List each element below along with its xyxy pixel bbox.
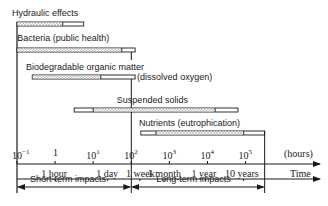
hours-tick-label: 102 (124, 148, 138, 161)
series-label: Nutrients (eutrophication) (139, 118, 240, 128)
hours-tick-label: 10−1 (12, 148, 29, 161)
hours-tick-label: 105 (239, 148, 253, 161)
series-label: Biodegradable organic matter (26, 62, 144, 72)
short-term-label: Short-term impacts (30, 174, 106, 184)
long-term-label: Long-term impacts (156, 174, 231, 184)
bar-hatched-range (18, 23, 63, 26)
hours-tick-label: 101 (86, 148, 100, 161)
hours-tick-label: 1 (53, 148, 58, 158)
bar-hatched-range (94, 109, 215, 112)
hours-tick-label: 104 (201, 148, 215, 161)
series-label: Hydraulic effects (12, 8, 78, 18)
series-note: (dissolved oxygen) (137, 72, 212, 82)
bar-hatched-range (33, 76, 101, 79)
bar-hatched-range (157, 132, 244, 135)
series-label: Suspended solids (117, 95, 188, 105)
time-label: Time (290, 169, 311, 179)
units-label: (hours) (284, 149, 313, 159)
hours-tick-label: 103 (162, 148, 176, 161)
series-label: Bacteria (public health) (17, 33, 109, 43)
bar-hatched-range (18, 49, 122, 52)
